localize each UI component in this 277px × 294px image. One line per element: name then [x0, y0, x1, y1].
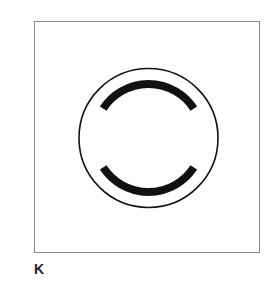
panel-label: K — [34, 262, 44, 276]
outer-circle — [79, 69, 218, 208]
lower-arc — [103, 167, 194, 192]
upper-arc — [103, 84, 194, 109]
circle-figure — [35, 22, 261, 254]
figure-panel — [34, 21, 260, 253]
top-panel-label: I — [35, 0, 39, 2]
